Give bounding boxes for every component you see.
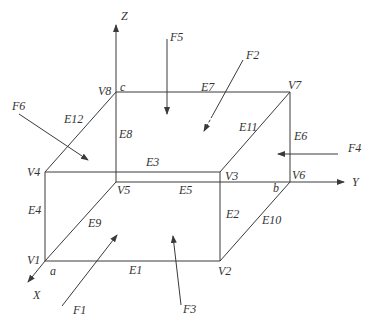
- edge-label-e9: E9: [87, 216, 101, 230]
- edge-label-e12: E12: [63, 112, 83, 126]
- edge-label-e6: E6: [293, 129, 307, 143]
- vertex-label-v8: V8: [98, 84, 111, 98]
- corner-label-a: a: [50, 264, 56, 278]
- edge-label-e11: E11: [238, 120, 257, 134]
- axis-label-y: Y: [352, 175, 360, 189]
- edge-label-e5: E5: [178, 183, 192, 197]
- vertex-label-v5: V5: [117, 183, 130, 197]
- edge-e9: [45, 182, 116, 261]
- force-label-f5: F5: [169, 30, 183, 44]
- edge-label-e8: E8: [118, 127, 132, 141]
- vertex-label-v1: V1: [27, 253, 40, 267]
- force-f2-hidden-part: [204, 115, 213, 131]
- force-f2-shaft: [213, 60, 243, 115]
- corner-label-c: c: [120, 80, 126, 94]
- axis-label-z: Z: [121, 9, 128, 23]
- edge-e12: [45, 92, 116, 172]
- axis-label-x: X: [32, 288, 41, 302]
- vertex-label-v7: V7: [288, 78, 302, 92]
- labels-group: ZYXE1E2E3E4E5E6E7E8E9E10E11E12F1F2F3F4F5…: [11, 9, 361, 317]
- edge-label-e2: E2: [225, 207, 239, 221]
- corner-label-b: b: [273, 181, 279, 195]
- force-f1: [62, 235, 117, 306]
- cuboid-diagram: ZYXE1E2E3E4E5E6E7E8E9E10E11E12F1F2F3F4F5…: [0, 0, 368, 324]
- edge-label-e7: E7: [200, 80, 215, 94]
- edge-label-e4: E4: [27, 203, 41, 217]
- edge-label-e10: E10: [261, 213, 281, 227]
- force-label-f6: F6: [11, 99, 25, 113]
- force-f3: [173, 236, 181, 305]
- edge-label-e3: E3: [145, 155, 159, 169]
- force-label-f3: F3: [182, 302, 196, 316]
- vertex-label-v4: V4: [27, 165, 40, 179]
- vertex-label-v3: V3: [225, 169, 238, 183]
- force-label-f2: F2: [245, 48, 259, 62]
- edge-label-e1: E1: [128, 263, 142, 277]
- vertex-label-v6: V6: [292, 168, 305, 182]
- vertex-label-v2: V2: [218, 264, 231, 278]
- force-label-f4: F4: [347, 141, 361, 155]
- force-label-f1: F1: [72, 303, 86, 317]
